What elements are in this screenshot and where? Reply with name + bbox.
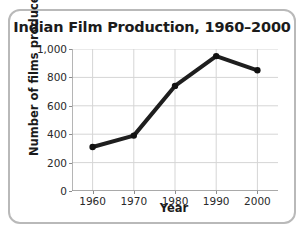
y-axis-title: Number of films produced xyxy=(27,4,41,156)
y-tick-label: 0 xyxy=(60,185,67,197)
x-tick-label: 1970 xyxy=(120,195,147,207)
gridlines xyxy=(72,49,278,191)
y-tick-mark xyxy=(69,191,72,192)
y-tick-mark xyxy=(69,134,72,135)
y-tick-mark xyxy=(69,106,72,107)
x-tick-mark xyxy=(257,191,258,194)
x-tick-mark xyxy=(93,191,94,194)
x-tick-label: 1980 xyxy=(162,195,189,207)
x-tick-mark xyxy=(175,191,176,194)
y-tick-mark xyxy=(69,77,72,78)
x-tick-label: 1990 xyxy=(203,195,230,207)
plot-area: 02004006008001,000 19601970198019902000 xyxy=(72,49,278,191)
plot-canvas xyxy=(72,49,278,191)
y-tick-mark xyxy=(69,49,72,50)
x-tick-mark xyxy=(216,191,217,194)
chart-title: Indian Film Production, 1960–2000 xyxy=(10,19,294,35)
y-tick-label: 400 xyxy=(47,128,67,140)
x-tick-label: 2000 xyxy=(244,195,271,207)
x-tick-label: 1960 xyxy=(79,195,106,207)
y-tick-label: 600 xyxy=(47,100,67,112)
y-tick-label: 1,000 xyxy=(37,43,67,55)
y-tick-mark xyxy=(69,163,72,164)
y-tick-label: 200 xyxy=(47,157,67,169)
x-tick-mark xyxy=(134,191,135,194)
chart-figure: Indian Film Production, 1960–2000 Number… xyxy=(8,9,296,224)
y-tick-label: 800 xyxy=(47,71,67,83)
